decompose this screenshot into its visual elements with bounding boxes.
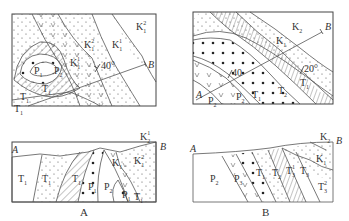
panel-b-map: K2 K1 B 40 20° T1 T2 T1 P2 P2 A [193, 12, 333, 108]
dip-20: 20° [304, 63, 318, 74]
dip-40: 40 [232, 67, 242, 78]
map-b-point-a: A [195, 89, 203, 100]
map-a-point-b: B [148, 59, 154, 70]
caption-b: B [262, 206, 269, 218]
caption-a: A [80, 206, 88, 218]
label-k21: K21 [140, 130, 150, 144]
map-b-point-b: B [325, 21, 331, 32]
geology-figure: K12 K11 K12 K11 40° B P1 P2 T1 T1 T1 [0, 0, 349, 221]
section-a-end-b: B [160, 141, 166, 152]
panel-a-map: K12 K11 K12 K11 40° B P1 P2 T1 T1 T1 [12, 14, 156, 116]
section-a-end-a: A [11, 144, 19, 155]
section-b-end-b: B [336, 135, 342, 146]
panel-a-section: A B K21 T1 T1 T1 P1 P2 P1 T1 K1 K12 A [11, 130, 166, 218]
dip-40: 40° [101, 60, 115, 71]
section-b-end-a: A [189, 143, 197, 154]
panel-b-section: A B K2 P2 P3 T1 T2 T31 T3 K1 T32 B [189, 131, 342, 218]
